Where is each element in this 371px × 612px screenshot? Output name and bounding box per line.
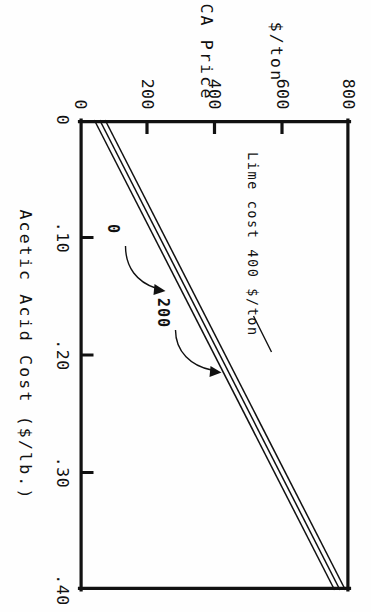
x-tick-label-10: .10 [52,222,71,253]
x-tick-label-40: .40 [52,574,71,605]
x-axis-title: Acetic Acid Cost ($/lb.) [15,209,34,500]
x-tick-label-0: 0 [52,115,71,125]
annotation-0-label: 0 [103,224,121,234]
rotated-figure-container: Lime cost 400 $/ton 200 0 0 .10 .20 .30 … [0,0,371,612]
y-tick-label-200: 200 [137,79,156,110]
annotation-lime-0: 0 [103,224,165,295]
annotation-lime-400-label: Lime cost 400 $/ton [244,152,260,337]
line-chart: Lime cost 400 $/ton 200 0 0 .10 .20 .30 … [0,0,371,612]
data-series-group [94,120,345,590]
y-axis-title-line-bottom: CA Price [196,3,215,100]
series-line-lime-0 [94,120,334,590]
arrow-head-0 [153,284,165,295]
series-line-lime-200 [99,120,339,590]
annotation-lime-400: Lime cost 400 $/ton [244,152,271,352]
y-tick-label-0: 0 [70,100,89,110]
x-tick-label-30: .30 [52,457,71,488]
x-tick-label-20: .20 [52,339,71,370]
y-tick-label-600: 600 [272,79,291,110]
arrow-head-200 [209,366,221,377]
figure-canvas: Lime cost 400 $/ton 200 0 0 .10 .20 .30 … [0,0,371,612]
y-axis-title-line-top: $/ton [266,22,285,83]
series-line-lime-400 [105,120,345,590]
y-tick-label-800: 800 [338,79,357,110]
y-axis-ticks [147,122,282,134]
annotation-200-label: 200 [153,298,171,328]
x-axis-tick-labels: 0 .10 .20 .30 .40 [52,115,71,606]
